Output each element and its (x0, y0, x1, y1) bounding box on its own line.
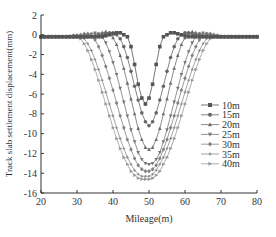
y-tick-label: -8 (29, 108, 37, 119)
star-marker-icon (180, 102, 184, 106)
star-marker-icon (194, 58, 198, 62)
y-tick-label: -2 (29, 49, 37, 60)
y-axis-label: Track slab settlement displacement(mm) (4, 31, 14, 177)
circle-marker-icon (118, 37, 122, 41)
square-marker-icon (208, 103, 212, 107)
square-marker-icon (57, 35, 61, 39)
diamond-marker-icon (158, 156, 162, 160)
diamond-marker-icon (115, 101, 119, 105)
x-tick-label: 30 (72, 196, 82, 207)
star-marker-icon (183, 90, 187, 94)
triangle-down-marker-icon (162, 140, 166, 144)
star-marker-icon (126, 156, 130, 160)
triangle-up-marker-icon (129, 97, 133, 101)
square-marker-icon (201, 35, 205, 39)
triangle-right-marker-icon (205, 42, 209, 46)
square-marker-icon (97, 35, 101, 39)
star-marker-icon (100, 78, 104, 82)
square-marker-icon (111, 32, 115, 36)
diamond-marker-icon (144, 169, 148, 173)
square-marker-icon (43, 35, 47, 39)
x-tick-label: 80 (252, 196, 262, 207)
y-tick-label: -14 (24, 168, 37, 179)
circle-marker-icon (169, 56, 173, 60)
star-marker-icon (162, 156, 166, 160)
circle-marker-icon (122, 45, 126, 49)
square-marker-icon (104, 34, 108, 38)
diamond-marker-icon (108, 76, 112, 80)
triangle-down-marker-icon (122, 101, 126, 105)
triangle-up-marker-icon (154, 137, 158, 141)
square-marker-icon (136, 82, 140, 86)
triangle-up-marker-icon (158, 127, 162, 131)
square-marker-icon (198, 35, 202, 39)
circle-marker-icon (140, 111, 144, 115)
square-marker-icon (147, 96, 151, 100)
square-marker-icon (230, 35, 234, 39)
triangle-down-marker-icon (129, 128, 133, 132)
chart-canvas: 20-2-4-6-8-10-12-14-1620304050607080 10m… (0, 0, 276, 237)
square-marker-icon (82, 35, 86, 39)
circle-marker-icon (126, 56, 130, 60)
square-marker-icon (183, 34, 187, 38)
square-marker-icon (205, 35, 209, 39)
triangle-right-marker-icon (140, 177, 144, 181)
star-marker-icon (93, 58, 97, 62)
diamond-marker-icon (165, 137, 169, 141)
square-marker-icon (93, 35, 97, 39)
legend: 10m15m20m25m30m35m40m (201, 100, 240, 170)
square-marker-icon (226, 35, 230, 39)
circle-marker-icon (176, 37, 180, 41)
diamond-marker-icon (126, 137, 130, 141)
square-marker-icon (126, 35, 130, 39)
square-marker-icon (208, 35, 212, 39)
star-marker-icon (111, 114, 115, 118)
triangle-down-marker-icon (180, 73, 184, 77)
square-marker-icon (223, 35, 227, 39)
triangle-up-marker-icon (176, 53, 180, 57)
triangle-down-marker-icon (111, 61, 115, 65)
square-marker-icon (122, 33, 126, 37)
square-marker-icon (219, 35, 223, 39)
triangle-down-marker-icon (108, 50, 112, 54)
square-marker-icon (234, 35, 238, 39)
circle-marker-icon (165, 70, 169, 74)
square-marker-icon (180, 33, 184, 37)
circle-marker-icon (162, 84, 166, 88)
square-marker-icon (216, 35, 220, 39)
star-marker-icon (108, 102, 112, 106)
square-marker-icon (118, 31, 122, 35)
triangle-down-marker-icon (208, 133, 212, 137)
circle-marker-icon (172, 45, 176, 49)
circle-marker-icon (158, 98, 162, 102)
circle-marker-icon (154, 111, 158, 115)
x-tick-label: 40 (108, 196, 118, 207)
square-marker-icon (176, 32, 180, 36)
star-marker-icon (90, 49, 94, 53)
diamond-marker-icon (183, 76, 187, 80)
square-marker-icon (158, 45, 162, 49)
star-marker-icon (176, 114, 180, 118)
triangle-down-marker-icon (115, 73, 119, 77)
triangle-up-marker-icon (165, 97, 169, 101)
star-marker-icon (165, 147, 169, 151)
star-marker-icon (129, 163, 133, 167)
circle-marker-icon (144, 120, 148, 124)
square-marker-icon (75, 35, 79, 39)
x-tick-label: 60 (180, 196, 190, 207)
square-marker-icon (115, 31, 119, 35)
circle-marker-icon (129, 70, 133, 74)
y-tick-label: -16 (24, 188, 37, 199)
star-marker-icon (172, 126, 176, 130)
star-marker-icon (190, 68, 194, 72)
square-marker-icon (248, 35, 252, 39)
square-marker-icon (241, 35, 245, 39)
square-marker-icon (129, 45, 133, 49)
square-marker-icon (151, 82, 155, 86)
circle-marker-icon (133, 84, 137, 88)
square-marker-icon (169, 31, 173, 35)
diamond-marker-icon (187, 64, 191, 68)
square-marker-icon (61, 35, 65, 39)
diamond-marker-icon (118, 114, 122, 118)
x-tick-label: 50 (144, 196, 154, 207)
